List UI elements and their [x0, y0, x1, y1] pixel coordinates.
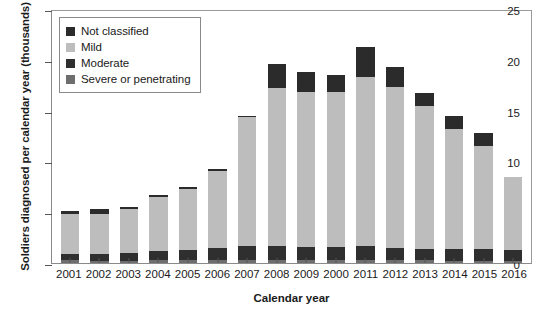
- bar-segment-mild: [504, 177, 522, 250]
- stacked-bar[interactable]: [327, 75, 345, 263]
- stacked-bar[interactable]: [386, 67, 404, 263]
- bar-slot: [469, 11, 499, 263]
- bar-segment-mild: [386, 87, 404, 249]
- y-axis-tick: [45, 265, 52, 266]
- y-axis-tick: [45, 62, 52, 63]
- bar-segment-not-classified: [386, 67, 404, 86]
- legend-item[interactable]: Moderate: [66, 55, 191, 71]
- chart-legend: Not classifiedMildModerateSevere or pene…: [59, 17, 201, 93]
- stacked-bar[interactable]: [179, 187, 197, 263]
- chart-figure: Soldiers diagnosed per calendar year (th…: [0, 0, 537, 311]
- x-axis-tick: [454, 258, 455, 263]
- bar-segment-not-classified: [268, 64, 286, 88]
- bar-segment-mild: [90, 214, 108, 254]
- stacked-bar[interactable]: [90, 209, 108, 263]
- stacked-bar[interactable]: [120, 207, 138, 263]
- y-axis-tick: [45, 214, 52, 215]
- x-axis-tick: [158, 258, 159, 263]
- bar-segment-not-classified: [474, 133, 492, 146]
- legend-item[interactable]: Severe or penetrating: [66, 71, 191, 87]
- legend-label: Severe or penetrating: [81, 73, 191, 85]
- bar-slot: [232, 11, 262, 263]
- bar-segment-mild: [356, 77, 374, 246]
- stacked-bar[interactable]: [474, 133, 492, 263]
- y-axis-tick: [45, 11, 52, 12]
- x-axis-tick-label: 2004: [145, 268, 171, 280]
- x-axis-tick-label: 2014: [442, 268, 468, 280]
- stacked-bar[interactable]: [356, 47, 374, 263]
- x-axis-tick: [188, 258, 189, 263]
- x-axis-tick-label: 2003: [115, 268, 141, 280]
- x-axis-tick: [306, 258, 307, 263]
- bar-segment-mild: [120, 209, 138, 253]
- bar-segment-mild: [327, 92, 345, 246]
- bar-segment-mild: [208, 171, 226, 248]
- bar-slot: [351, 11, 381, 263]
- stacked-bar[interactable]: [445, 116, 463, 263]
- x-axis-tick: [483, 258, 484, 263]
- stacked-bar[interactable]: [504, 177, 522, 263]
- bar-slot: [292, 11, 322, 263]
- x-axis-tick: [424, 258, 425, 263]
- stacked-bar[interactable]: [297, 72, 315, 263]
- bar-segment-not-classified: [297, 72, 315, 92]
- legend-item[interactable]: Not classified: [66, 23, 191, 39]
- bar-slot: [380, 11, 410, 263]
- x-axis-tick: [513, 258, 514, 263]
- bar-segment-not-classified: [415, 93, 433, 106]
- legend-label: Not classified: [81, 25, 149, 37]
- legend-swatch-icon: [66, 75, 75, 84]
- bar-segment-mild: [474, 146, 492, 249]
- bar-segment-not-classified: [327, 75, 345, 92]
- x-axis-tick-label: 2008: [264, 268, 290, 280]
- x-axis-tick-label: 2011: [353, 268, 378, 280]
- stacked-bar[interactable]: [149, 195, 167, 263]
- y-axis-title: Soldiers diagnosed per calendar year (th…: [16, 1, 34, 272]
- x-axis-tick-label: 2001: [56, 268, 82, 280]
- x-axis-tick-label: 2012: [383, 268, 409, 280]
- x-axis-tick: [276, 258, 277, 263]
- x-axis-tick-label: 2006: [204, 268, 230, 280]
- stacked-bar[interactable]: [208, 169, 226, 263]
- bar-segment-mild: [268, 88, 286, 245]
- x-axis-tick: [247, 258, 248, 263]
- y-axis-tick: [45, 163, 52, 164]
- x-axis-tick-label: 2013: [412, 268, 438, 280]
- legend-swatch-icon: [66, 59, 75, 68]
- x-axis-tick-label: 2002: [86, 268, 112, 280]
- x-axis-tick: [99, 258, 100, 263]
- bar-segment-mild: [238, 117, 256, 246]
- legend-label: Moderate: [81, 57, 129, 69]
- bar-segment-mild: [297, 92, 315, 246]
- legend-label: Mild: [81, 41, 102, 53]
- stacked-bar[interactable]: [61, 211, 79, 263]
- bar-slot: [410, 11, 440, 263]
- legend-item[interactable]: Mild: [66, 39, 191, 55]
- x-axis-tick-label: 2005: [175, 268, 201, 280]
- bar-slot: [498, 11, 528, 263]
- x-axis-tick: [217, 258, 218, 263]
- x-axis-tick-label: 2015: [472, 268, 498, 280]
- x-axis-tick-label: 2007: [234, 268, 260, 280]
- legend-swatch-icon: [66, 27, 75, 36]
- bar-segment-not-classified: [356, 47, 374, 77]
- bar-segment-mild: [179, 189, 197, 250]
- stacked-bar[interactable]: [415, 93, 433, 263]
- x-axis-tick-label: 2016: [501, 268, 527, 280]
- bar-slot: [203, 11, 233, 263]
- bar-segment-not-classified: [445, 116, 463, 129]
- bar-slot: [262, 11, 292, 263]
- bar-slot: [439, 11, 469, 263]
- bar-segment-mild: [61, 214, 79, 254]
- x-axis-tick: [128, 258, 129, 263]
- stacked-bar[interactable]: [238, 116, 256, 263]
- x-axis-tick: [394, 258, 395, 263]
- bar-slot: [321, 11, 351, 263]
- bar-segment-mild: [415, 106, 433, 249]
- stacked-bar[interactable]: [268, 64, 286, 263]
- bar-segment-mild: [149, 197, 167, 251]
- y-axis-tick: [45, 113, 52, 114]
- x-axis-title: Calendar year: [51, 292, 532, 304]
- x-axis-tick: [365, 258, 366, 263]
- x-axis-tick-label: 2000: [323, 268, 349, 280]
